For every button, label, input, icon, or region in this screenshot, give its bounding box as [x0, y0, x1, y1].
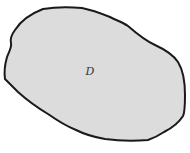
region-diagram: D	[0, 0, 190, 153]
region-label: D	[85, 65, 95, 78]
region-svg: D	[0, 0, 190, 153]
region-d-boundary	[5, 7, 185, 140]
